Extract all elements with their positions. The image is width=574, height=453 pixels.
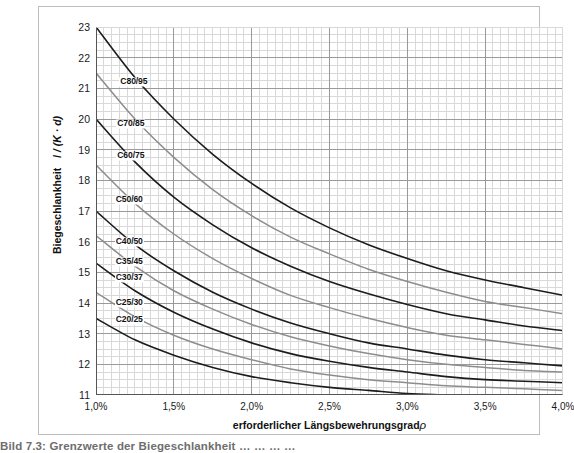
y-axis-title-text: Biegeschlankheit (51, 168, 63, 254)
y-tick-label: 22 (78, 52, 90, 63)
y-tick-label: 12 (78, 359, 90, 370)
curve-label-C80-95: C80/95 (119, 78, 148, 87)
x-tick-label: 3,5% (474, 402, 497, 412)
curve-label-C25-30: C25/30 (115, 298, 144, 307)
chart-curves (96, 27, 563, 395)
curve-label-C70-85: C70/85 (116, 119, 145, 128)
y-tick-label: 13 (78, 328, 90, 339)
x-axis-title-symbol: ρ (420, 419, 427, 431)
y-tick-label: 11 (79, 390, 90, 401)
curve-C20-25 (96, 318, 563, 398)
curve-C40-50 (96, 211, 563, 366)
y-tick-label: 19 (78, 144, 90, 155)
y-tick-label: 21 (78, 83, 90, 94)
y-tick-label: 20 (78, 114, 90, 125)
y-axis-title-symbol: l / (K · d) (51, 116, 63, 158)
x-tick-label: 1,0% (85, 402, 108, 412)
x-tick-label: 4,0% (552, 402, 574, 412)
y-tick-label: 15 (78, 267, 90, 278)
curve-C70-85 (96, 73, 563, 314)
y-tick-label: 14 (78, 298, 90, 309)
curve-label-C35-45: C35/45 (115, 257, 144, 266)
curve-label-C60-75: C60/75 (116, 151, 145, 160)
curve-label-C50-60: C50/60 (115, 196, 144, 205)
y-axis-title: Biegeschlankheit l / (K · d) (51, 55, 63, 315)
x-tick-label: 1,5% (162, 402, 185, 412)
y-tick-label: 17 (78, 206, 90, 217)
figure-caption: Bild 7.3: Grenzwerte der Biegeschlankhei… (0, 440, 548, 452)
x-tick-label: 2,5% (318, 402, 341, 412)
y-tick-label: 23 (78, 22, 90, 33)
curve-label-C40-50: C40/50 (115, 237, 144, 246)
y-tick-label: 18 (78, 175, 90, 186)
x-tick-label: 2,0% (240, 402, 263, 412)
x-axis-title-text: erforderlicher Längsbewehrungsgrad (233, 419, 420, 431)
y-tick-label: 16 (78, 236, 90, 247)
figure-frame: 11121314151617181920212223 1,0%1,5%2,0%2… (38, 6, 540, 435)
curve-label-C20-25: C20/25 (115, 315, 144, 324)
curve-C80-95 (96, 27, 563, 295)
chart-plot-area: 11121314151617181920212223 1,0%1,5%2,0%2… (96, 27, 563, 395)
x-tick-label: 3,0% (396, 402, 419, 412)
curve-label-C30-37: C30/37 (115, 274, 144, 283)
x-axis-title: erforderlicher Längsbewehrungsgradρ (96, 419, 563, 431)
